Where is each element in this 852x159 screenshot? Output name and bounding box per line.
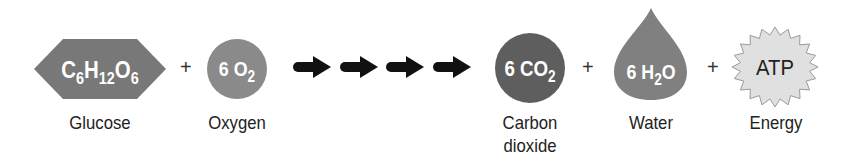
reaction-arrows <box>293 56 471 78</box>
energy-label: Energy <box>732 112 820 134</box>
energy-formula: ATP <box>756 55 794 79</box>
water-drop <box>614 8 687 100</box>
arrow-icon <box>433 56 471 78</box>
respiration-equation-diagram: C6H12O6 6 O2 6 CO2 6 H2O ATP <box>0 0 852 159</box>
arrow-icon <box>386 56 424 78</box>
plus-sign: + <box>707 56 719 79</box>
plus-sign: + <box>180 56 192 79</box>
water-label: Water <box>607 112 695 134</box>
carbon-dioxide-label-line1: Carbon <box>486 112 574 134</box>
arrow-icon <box>340 56 378 78</box>
plus-sign: + <box>582 56 594 79</box>
oxygen-label: Oxygen <box>193 112 281 134</box>
carbon-dioxide-label-line2: dioxide <box>486 135 574 157</box>
arrow-icon <box>293 56 331 78</box>
glucose-label: Glucose <box>56 112 144 134</box>
